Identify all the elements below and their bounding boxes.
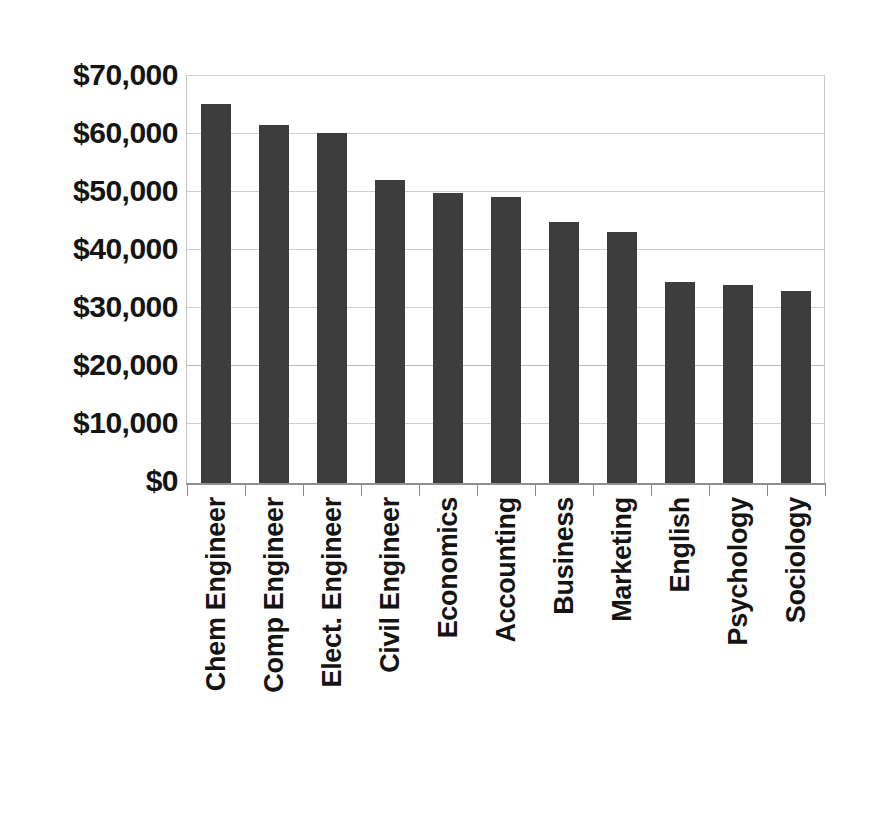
bar — [201, 104, 231, 483]
y-axis-tick-label: $10,000 — [30, 408, 178, 438]
bar — [607, 232, 637, 483]
x-axis-label-slot: Sociology — [767, 497, 825, 747]
y-axis-tick-label: $20,000 — [30, 350, 178, 380]
x-axis-category-label: Sociology — [783, 497, 810, 623]
x-axis-tick — [303, 485, 304, 496]
x-axis-category-label: Chem Engineer — [203, 497, 230, 691]
x-axis-tick — [709, 485, 710, 496]
x-axis-label-slot: Economics — [419, 497, 477, 747]
bar — [665, 282, 695, 483]
y-axis-tick-label: $50,000 — [30, 176, 178, 206]
x-axis-tick — [419, 485, 420, 496]
x-axis-tick — [535, 485, 536, 496]
x-axis-category-label: Comp Engineer — [261, 497, 288, 693]
bar — [375, 180, 405, 483]
bar — [491, 197, 521, 483]
x-axis: Chem EngineerComp EngineerElect. Enginee… — [187, 497, 825, 747]
x-axis-label-slot: English — [651, 497, 709, 747]
x-axis-category-label: Elect. Engineer — [319, 497, 346, 688]
bars-layer — [187, 75, 825, 483]
x-axis-category-label: Economics — [435, 497, 462, 638]
x-axis-tick — [651, 485, 652, 496]
x-axis-tick — [361, 485, 362, 496]
x-axis-ticks — [187, 485, 825, 497]
y-axis-tick-label: $0 — [30, 466, 178, 496]
x-axis-category-label: Marketing — [609, 497, 636, 622]
x-axis-tick — [187, 485, 188, 496]
y-axis-tick-label: $30,000 — [30, 292, 178, 322]
x-axis-tick — [767, 485, 768, 496]
bar — [781, 291, 811, 483]
y-axis-tick-label: $70,000 — [30, 60, 178, 90]
bar-chart: $70,000 $60,000 $50,000 $40,000 $30,000 … — [0, 0, 869, 823]
x-axis-label-slot: Accounting — [477, 497, 535, 747]
x-axis-tick — [245, 485, 246, 496]
x-axis-label-slot: Comp Engineer — [245, 497, 303, 747]
x-axis-category-label: English — [667, 497, 694, 592]
y-axis-tick-label: $60,000 — [30, 118, 178, 148]
bar — [317, 133, 347, 483]
x-axis-category-label: Accounting — [493, 497, 520, 643]
x-axis-label-slot: Chem Engineer — [187, 497, 245, 747]
bar — [259, 125, 289, 483]
x-axis-label-slot: Marketing — [593, 497, 651, 747]
bar — [433, 193, 463, 483]
x-axis-tick — [477, 485, 478, 496]
x-axis-category-label: Civil Engineer — [377, 497, 404, 673]
x-axis-category-label: Business — [551, 497, 578, 615]
bar — [723, 285, 753, 483]
x-axis-tick — [825, 485, 826, 496]
x-axis-label-slot: Psychology — [709, 497, 767, 747]
bar — [549, 222, 579, 483]
x-axis-label-slot: Civil Engineer — [361, 497, 419, 747]
x-axis-category-label: Psychology — [725, 497, 752, 646]
y-axis: $70,000 $60,000 $50,000 $40,000 $30,000 … — [30, 0, 178, 823]
x-axis-label-slot: Business — [535, 497, 593, 747]
y-axis-tick-label: $40,000 — [30, 234, 178, 264]
x-axis-label-slot: Elect. Engineer — [303, 497, 361, 747]
x-axis-tick — [593, 485, 594, 496]
